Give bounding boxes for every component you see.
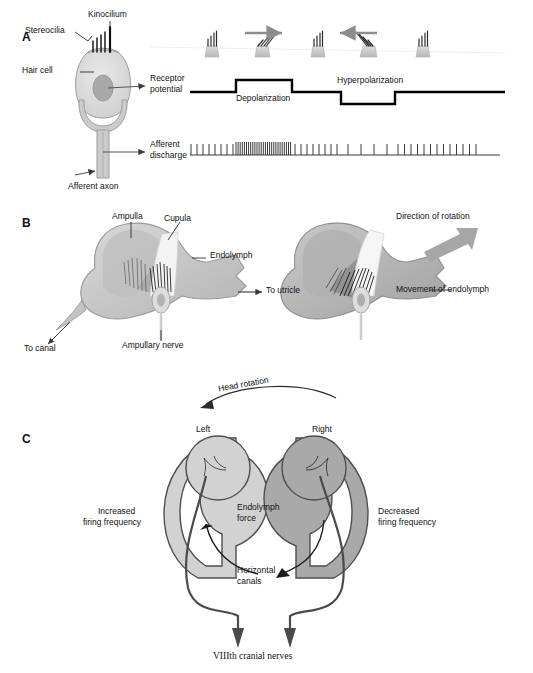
figure-vestibular-transduction: A [0, 0, 533, 673]
label-left-canal: Left [196, 425, 210, 435]
label-endolymph-force-2: force [237, 514, 256, 524]
right-nerve-arrowhead [284, 628, 296, 648]
label-cranial-nerves: VIIIth cranial nerves [213, 651, 292, 662]
label-decreased-firing-1: Decreased [378, 507, 419, 517]
label-decreased-firing-2: firing frequency [378, 518, 436, 528]
label-endolymph-force-1: Endolymph [237, 503, 280, 513]
head-rotation-arrowhead [200, 400, 214, 409]
label-increased-firing-1: Increased [98, 507, 135, 517]
label-right-canal: Right [312, 425, 332, 435]
left-nerve-arrowhead [232, 628, 244, 648]
label-increased-firing-2: firing frequency [83, 518, 141, 528]
label-horizontal-canals-2: canals [237, 577, 262, 587]
label-horizontal-canals-1: Horizontal [237, 566, 275, 576]
